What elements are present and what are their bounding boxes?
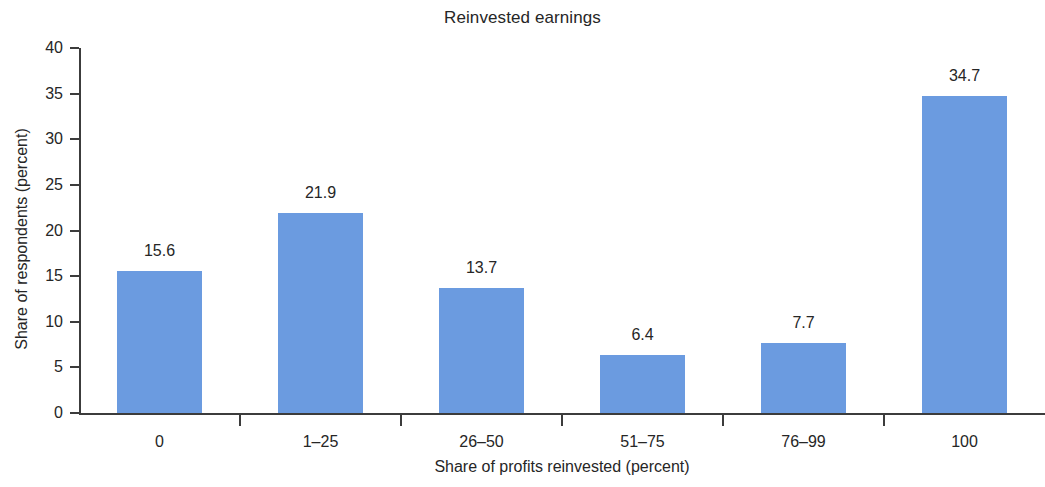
y-axis-tick-label: 5 bbox=[17, 359, 63, 375]
y-axis-tick bbox=[70, 138, 79, 140]
y-axis-tick bbox=[70, 366, 79, 368]
y-axis-tick-label: 15 bbox=[17, 268, 63, 284]
x-axis-title: Share of profits reinvested (percent) bbox=[79, 458, 1045, 476]
bar bbox=[761, 343, 846, 413]
bar-value-label: 15.6 bbox=[110, 242, 210, 260]
bar-chart-figure: Reinvested earnings Share of respondents… bbox=[0, 0, 1045, 487]
x-axis-tick bbox=[400, 415, 402, 426]
x-axis-tick bbox=[561, 415, 563, 426]
bar bbox=[278, 213, 363, 413]
y-axis-tick bbox=[70, 47, 79, 49]
x-axis-category-label: 1–25 bbox=[261, 433, 381, 451]
plot-area: 0510152025303540 15.621.913.76.47.734.7 … bbox=[79, 48, 1045, 413]
y-axis-tick bbox=[70, 412, 79, 414]
bar-value-label: 34.7 bbox=[915, 67, 1015, 85]
chart-title: Reinvested earnings bbox=[0, 8, 1045, 28]
bar-value-label: 13.7 bbox=[432, 259, 532, 277]
y-axis-tick-label: 20 bbox=[17, 223, 63, 239]
y-axis-tick-label: 40 bbox=[17, 40, 63, 56]
x-axis-tick bbox=[883, 415, 885, 426]
y-axis-tick bbox=[70, 275, 79, 277]
y-axis-tick bbox=[70, 184, 79, 186]
y-axis-tick-label: 35 bbox=[17, 86, 63, 102]
x-axis-category-label: 51–75 bbox=[583, 433, 703, 451]
y-axis-tick-label: 30 bbox=[17, 131, 63, 147]
y-axis-tick bbox=[70, 321, 79, 323]
y-axis-tick-label: 0 bbox=[17, 405, 63, 421]
bar bbox=[600, 355, 685, 413]
bar bbox=[439, 288, 524, 413]
bar-value-label: 6.4 bbox=[593, 326, 693, 344]
bar-value-label: 21.9 bbox=[271, 184, 371, 202]
bar bbox=[117, 271, 202, 413]
y-axis-tick bbox=[70, 93, 79, 95]
x-axis-category-label: 76–99 bbox=[744, 433, 864, 451]
x-axis-tick bbox=[722, 415, 724, 426]
y-axis-tick-label: 10 bbox=[17, 314, 63, 330]
bar bbox=[922, 96, 1007, 413]
x-axis-category-label: 0 bbox=[100, 433, 220, 451]
x-axis-category-label: 100 bbox=[905, 433, 1025, 451]
y-axis-tick bbox=[70, 230, 79, 232]
bar-value-label: 7.7 bbox=[754, 314, 854, 332]
x-axis-tick bbox=[239, 415, 241, 426]
x-axis-category-label: 26–50 bbox=[422, 433, 542, 451]
y-axis-tick-label: 25 bbox=[17, 177, 63, 193]
y-axis-line bbox=[79, 48, 81, 414]
